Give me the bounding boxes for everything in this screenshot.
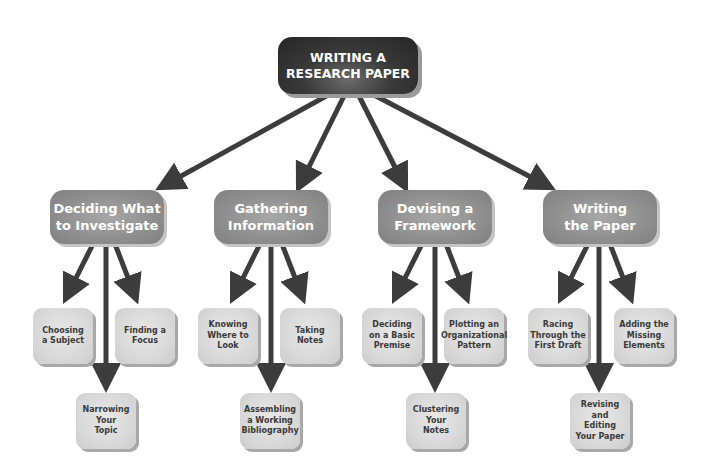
leaf-label: Taking Notes bbox=[295, 326, 324, 347]
leaf-label: Choosing a Subject bbox=[42, 326, 84, 347]
leaf-taking-notes: Taking Notes bbox=[280, 308, 340, 364]
branch-label: Gathering Information bbox=[228, 200, 314, 234]
leaf-knowing-where-to-look: Knowing Where to Look bbox=[198, 308, 258, 364]
branch-label: Writing the Paper bbox=[564, 200, 635, 234]
leaf-label: Racing Through the First Draft bbox=[530, 320, 585, 352]
branch-deciding-what-to-investigate: Deciding What to Investigate bbox=[50, 190, 164, 244]
leaf-label: Finding a Focus bbox=[124, 326, 166, 347]
leaf-choosing-a-subject: Choosing a Subject bbox=[33, 308, 93, 364]
leaf-label: Adding the Missing Elements bbox=[619, 320, 669, 352]
leaf-finding-a-focus: Finding a Focus bbox=[115, 308, 175, 364]
leaf-label: Clustering Your Notes bbox=[413, 405, 459, 437]
leaf-plotting-an-organizational-pattern: Plotting an Organizational Pattern bbox=[444, 308, 504, 364]
branch-devising-a-framework: Devising a Framework bbox=[378, 190, 492, 244]
leaf-revising-and-editing-your-paper: Revising and Editing Your Paper bbox=[570, 393, 630, 449]
leaf-adding-the-missing-elements: Adding the Missing Elements bbox=[614, 308, 674, 364]
leaf-narrowing-your-topic: Narrowing Your Topic bbox=[76, 393, 136, 449]
branch-gathering-information: Gathering Information bbox=[214, 190, 328, 244]
root-node-writing-a-research-paper: WRITING A RESEARCH PAPER bbox=[278, 37, 418, 94]
leaf-assembling-a-working-bibliography: Assembling a Working Bibliography bbox=[240, 393, 300, 449]
leaf-racing-through-the-first-draft: Racing Through the First Draft bbox=[528, 308, 588, 364]
leaf-label: Revising and Editing Your Paper bbox=[572, 400, 628, 442]
branch-label: Deciding What to Investigate bbox=[53, 200, 160, 234]
leaf-label: Deciding on a Basic Premise bbox=[369, 320, 415, 352]
leaf-clustering-your-notes: Clustering Your Notes bbox=[406, 393, 466, 449]
branch-label: Devising a Framework bbox=[394, 200, 476, 234]
root-node-label: WRITING A RESEARCH PAPER bbox=[286, 50, 410, 82]
leaf-label: Assembling a Working Bibliography bbox=[241, 405, 298, 437]
leaf-label: Narrowing Your Topic bbox=[82, 405, 129, 437]
leaf-deciding-on-a-basic-premise: Deciding on a Basic Premise bbox=[362, 308, 422, 364]
leaf-label: Plotting an Organizational Pattern bbox=[441, 320, 507, 352]
branch-writing-the-paper: Writing the Paper bbox=[543, 190, 657, 244]
leaf-label: Knowing Where to Look bbox=[207, 320, 248, 352]
